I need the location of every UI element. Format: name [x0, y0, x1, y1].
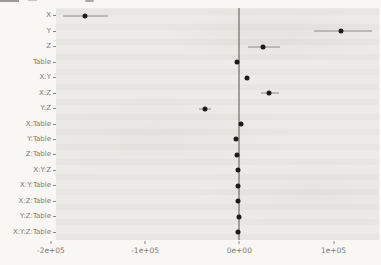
x-axis: -2e+05-1e+050e+001e+05 — [56, 240, 379, 262]
x-tick-mark — [333, 241, 334, 244]
category-label-text: X:Y:Z:Table — [13, 229, 51, 236]
x-tick-label: -1e+05 — [131, 246, 159, 255]
point-estimate-dot — [236, 168, 241, 173]
category-label: Z — [0, 39, 56, 54]
category-label-text: Z:Table — [26, 151, 51, 158]
point-estimate-dot — [234, 137, 239, 142]
data-row — [56, 39, 379, 54]
data-row — [56, 23, 379, 38]
category-label-text: Table — [33, 59, 51, 66]
category-label: Y:Z:Table — [0, 209, 56, 224]
category-label-text: X:Z:Table — [19, 198, 51, 205]
data-row — [56, 132, 379, 147]
data-row — [56, 54, 379, 69]
point-estimate-dot — [82, 13, 87, 18]
category-label-text: X — [46, 12, 51, 19]
point-estimate-dot — [239, 122, 244, 127]
point-estimate-dot — [235, 152, 240, 157]
data-row — [56, 8, 379, 23]
scan-artifact — [85, 0, 94, 2]
x-tick-mark — [145, 241, 146, 244]
plot-panel — [56, 8, 379, 240]
category-label-text: X:Y — [40, 74, 51, 81]
category-label: X:Y:Table — [0, 178, 56, 193]
x-tick-mark — [239, 241, 240, 244]
category-label: X:Z — [0, 85, 56, 100]
coefficient-plot-figure: XYZTableX:YX:ZY:ZX:TableY:TableZ:TableX:… — [0, 0, 381, 265]
point-estimate-dot — [236, 230, 241, 235]
category-label: X:Table — [0, 116, 56, 131]
data-row — [56, 116, 379, 131]
data-row — [56, 101, 379, 116]
data-row — [56, 70, 379, 85]
category-label-text: Y:Table — [27, 136, 51, 143]
data-row — [56, 178, 379, 193]
category-label-text: Z — [46, 43, 51, 50]
data-row — [56, 225, 379, 240]
point-estimate-dot — [203, 106, 208, 111]
category-label: X — [0, 8, 56, 23]
point-estimate-dot — [244, 75, 249, 80]
point-estimate-dot — [260, 44, 265, 49]
category-label: Z:Table — [0, 147, 56, 162]
category-label-text: Y:Z:Table — [20, 213, 51, 220]
scan-artifact — [0, 0, 19, 2]
category-label: Table — [0, 54, 56, 69]
category-label: Y:Table — [0, 132, 56, 147]
data-row — [56, 163, 379, 178]
category-label-text: X:Table — [26, 121, 51, 128]
category-label-text: Y — [47, 28, 51, 35]
x-tick-label: 0e+00 — [227, 246, 252, 255]
data-row — [56, 147, 379, 162]
category-label: X:Y:Z:Table — [0, 225, 56, 240]
category-label-text: X:Y:Table — [20, 182, 51, 189]
x-tick-label: -2e+05 — [37, 246, 65, 255]
point-estimate-dot — [235, 60, 240, 65]
category-label: X:Y:Z — [0, 163, 56, 178]
data-row — [56, 194, 379, 209]
point-estimate-dot — [267, 91, 272, 96]
category-label-text: Y:Z — [41, 105, 52, 112]
plot-rows — [56, 8, 379, 240]
point-estimate-dot — [339, 29, 344, 34]
x-tick-label: 1e+05 — [321, 246, 346, 255]
category-label: Y — [0, 23, 56, 38]
point-estimate-dot — [236, 199, 241, 204]
point-estimate-dot — [237, 214, 242, 219]
data-row — [56, 85, 379, 100]
data-row — [56, 209, 379, 224]
category-label-text: X:Y:Z — [33, 167, 51, 174]
x-tick-mark — [50, 241, 51, 244]
category-label: Y:Z — [0, 101, 56, 116]
scan-artifact — [28, 0, 37, 1]
category-label: X:Y — [0, 70, 56, 85]
category-label: X:Z:Table — [0, 194, 56, 209]
point-estimate-dot — [236, 183, 241, 188]
y-axis-labels: XYZTableX:YX:ZY:ZX:TableY:TableZ:TableX:… — [0, 8, 56, 240]
category-label-text: X:Z — [39, 90, 51, 97]
